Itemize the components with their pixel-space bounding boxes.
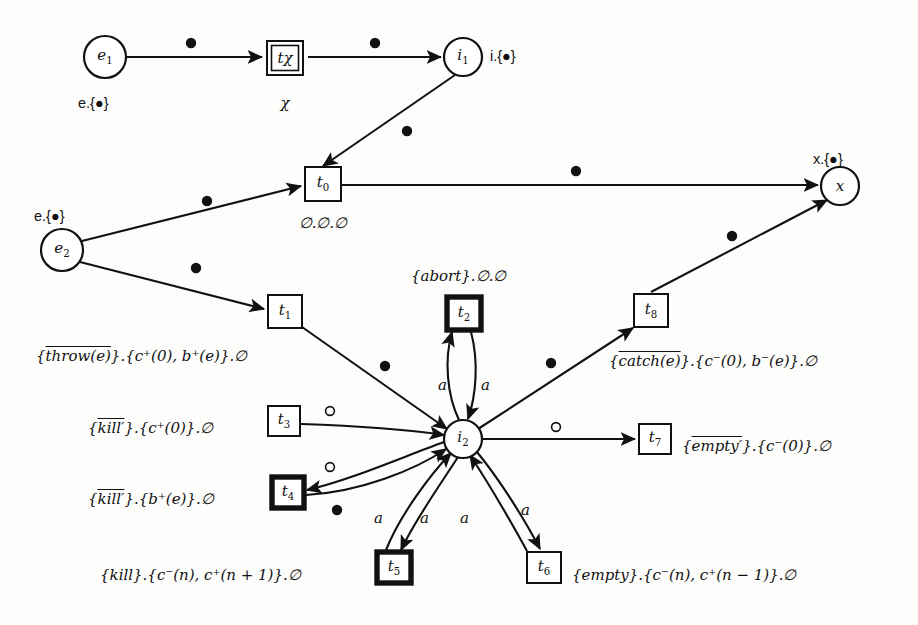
arc-i1-t0: [323, 75, 455, 166]
token-filled-dot: [571, 166, 581, 176]
token-hollow-dot: [326, 407, 335, 416]
arc-i2-t8: [478, 328, 633, 429]
transition-annotation-t6: {empty}.{c⁻(n), c⁺(n − 1)}.∅: [572, 568, 796, 583]
arc-t2-i2: [468, 332, 476, 419]
place-i1[interactable]: [444, 38, 482, 76]
transition-annotation-t7: {empty′}.{c⁻(0)}.∅: [682, 439, 831, 454]
token-filled-dot: [546, 358, 556, 368]
arc-label-t6-i2: a: [460, 511, 469, 526]
transition-annotation-t3: {kill′}.{c⁺(0)}.∅: [88, 421, 213, 436]
token-filled-dot: [727, 231, 737, 241]
transition-t5[interactable]: [377, 552, 411, 583]
petri-net-canvas: aaaaaae1e.{●}i1i.{●}e2e.{●}xx.{●}i2tχχt0…: [0, 0, 918, 625]
arc-t4b-i2: [306, 449, 446, 495]
place-x[interactable]: [821, 167, 859, 205]
arc-t8-x: [651, 200, 827, 292]
place-annotation-i1: i.{●}: [490, 49, 516, 64]
arc-t3-i2: [301, 424, 444, 435]
transition-t7[interactable]: [639, 424, 671, 454]
transition-annotation-t2: {abort}.∅.∅: [411, 269, 506, 284]
transition-sublabel-tx: χ: [280, 96, 289, 111]
transition-t3[interactable]: [268, 406, 300, 436]
arc-label-i2-t6: a: [521, 503, 530, 518]
token-hollow-dot: [326, 463, 335, 472]
arc-e2-t1: [80, 262, 264, 309]
transition-annotation-t8: {catch(e)}.{c⁻(0), b⁻(e)}.∅: [609, 354, 817, 369]
arc-t6-i2: [470, 455, 527, 551]
arc-label-t2-i2: a: [481, 378, 490, 393]
transition-t1[interactable]: [268, 295, 302, 328]
arc-e2-t0: [82, 186, 301, 241]
transition-t4[interactable]: [272, 477, 304, 508]
arc-label-i2-t2: a: [438, 378, 447, 393]
token-filled-dot: [402, 126, 412, 136]
token-filled-dot: [370, 38, 380, 48]
transition-sublabel-t0: ∅.∅.∅: [299, 216, 348, 231]
transition-annotation-t4: {kill′}.{b⁺(e)}.∅: [88, 492, 214, 507]
transition-t8[interactable]: [634, 294, 668, 327]
arc-label-t5-i2: a: [374, 511, 383, 526]
place-annotation-x: x.{●}: [813, 152, 843, 167]
transition-annotation-t1: {throw(e)}.{c⁺(0), b⁺(e)}.∅: [36, 349, 247, 364]
arc-i2-t2: [448, 332, 459, 420]
token-filled-dot: [202, 196, 212, 206]
token-filled-dot: [380, 361, 390, 371]
arc-i2-t6: [477, 452, 540, 549]
transition-t6[interactable]: [527, 552, 561, 583]
place-e1[interactable]: [84, 36, 126, 78]
transition-t0[interactable]: [305, 167, 341, 201]
arc-t1-i2: [302, 327, 447, 429]
place-annotation-e1: e.{●}: [78, 96, 109, 111]
token-filled-dot: [191, 263, 201, 273]
petri-net-svg: [0, 0, 918, 625]
place-i2[interactable]: [444, 420, 482, 458]
arc-label-i2-t5: a: [420, 511, 429, 526]
token-filled-dot: [186, 38, 196, 48]
place-annotation-e2: e.{●}: [34, 209, 65, 224]
token-hollow-dot: [552, 423, 561, 432]
transition-annotation-t5: {kill}.{c⁻(n), c⁺(n + 1)}.∅: [100, 568, 301, 583]
token-filled-dot: [332, 505, 342, 515]
transition-t2[interactable]: [447, 297, 481, 330]
arc-i2-t5: [401, 457, 458, 550]
place-e2[interactable]: [41, 229, 83, 271]
arc-t5-i2: [386, 453, 451, 550]
transition-tx[interactable]: [267, 41, 303, 75]
